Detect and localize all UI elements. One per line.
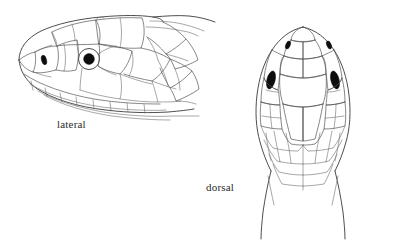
nostril [40,55,47,66]
prefrontal-right [303,56,326,78]
temporal-left-seam-1 [270,104,272,129]
temporal-right-seam-3 [325,116,344,118]
supralabial-div-6 [110,102,111,111]
prefrontal-left [280,56,303,78]
temporal-right-seam-1 [334,104,336,129]
neck-scale-row-3 [160,59,192,88]
supralabial-div-5 [93,100,94,109]
parietal-left [283,104,303,141]
lateral-neck-top-line-2 [146,27,198,36]
cheek-scale-2 [120,81,158,102]
view-label-dorsal: dorsal [206,181,234,193]
nostril-right [325,40,332,49]
nuchal-seam-l3 [266,133,271,161]
nuchal-seam-l1 [274,131,280,162]
dorsal-neck-right [335,171,345,239]
view-label-lateral: lateral [57,118,86,130]
parietal-seam [120,18,122,48]
eye-pupil [84,54,95,65]
loreal-seam [64,44,66,71]
dorsal-rostral-scale [291,27,315,42]
nuchal-seam-r3 [335,133,340,161]
neck-scale-seam-5 [152,81,176,89]
supralabial-div-8 [144,104,145,113]
frontal-shield [280,74,327,107]
parietal-shield [96,18,144,49]
temporal-left-2 [260,102,282,129]
temporal-seam-2 [120,74,152,84]
supralabial-div-7 [127,103,128,112]
nostril-left [284,40,291,49]
head-shield-seam-2 [72,24,75,41]
figure-canvas: lateral dorsal [0,0,393,245]
nuchal-row-left-1 [282,129,303,145]
nuchal-row-right-1 [303,129,324,145]
neck-taper-seam-left [268,176,274,205]
subocular-border [80,68,82,90]
parietal-right [303,104,323,141]
nuchal-seam-r1 [326,131,332,162]
lateral-view-drawing [19,16,215,121]
neck-taper-seam-right [332,176,338,205]
temporal-left-seam-2 [266,90,279,92]
temporal-right-seam-2 [327,90,340,92]
internasal-right [303,40,322,59]
temporal-scale-2 [124,48,170,81]
lateral-neck-top-line [150,21,204,31]
temporal-right-2 [324,102,346,129]
dorsal-view-drawing [256,27,350,239]
cheek-scale-1 [80,74,122,99]
dorsal-neck-left [261,171,271,239]
neck-scale-row-1 [147,22,186,54]
temporal-left-seam-3 [262,116,281,118]
neck-scale-seam-1 [175,69,180,90]
